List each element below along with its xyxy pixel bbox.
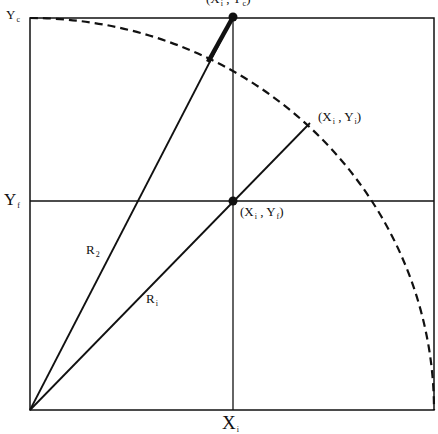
point-xi-yf [229, 197, 238, 206]
point-xi-yc [229, 13, 238, 22]
r2-line [30, 17, 233, 410]
radius-arc [30, 18, 434, 410]
diagram-canvas [0, 0, 438, 434]
label-point-xi-yi: (Xi , Yi) [318, 110, 361, 126]
label-point-top: (Xi , Yc) [206, 0, 251, 8]
r2-highlight-segment [208, 17, 233, 62]
label-r1: Ri [146, 292, 158, 308]
label-x-i: Xi [222, 413, 239, 434]
label-y-c: Yc [6, 8, 20, 24]
r1-line [30, 123, 310, 410]
label-r2: R2 [86, 243, 100, 259]
bounding-box [30, 18, 434, 410]
label-y-f: Yf [4, 191, 20, 210]
label-point-xi-yf: (Xi , Yf) [240, 205, 284, 221]
